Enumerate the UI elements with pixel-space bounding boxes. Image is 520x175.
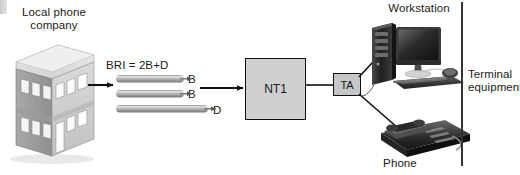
- channel-pipe-b1: [116, 75, 184, 83]
- isdn-topology-diagram: Local phone company BRI = 2B+D Workstati…: [0, 0, 520, 175]
- phone-icon: [381, 119, 470, 157]
- workstation-icon: [362, 23, 464, 96]
- bri-channel-bundle: [116, 75, 216, 113]
- channel-pipe-d: [116, 105, 208, 113]
- channel-pipe-b2: [116, 90, 184, 98]
- diagram-graphics-layer: [0, 0, 520, 175]
- connector-ta-to-phone: [359, 94, 398, 128]
- local-phone-company-building-icon: [10, 45, 94, 164]
